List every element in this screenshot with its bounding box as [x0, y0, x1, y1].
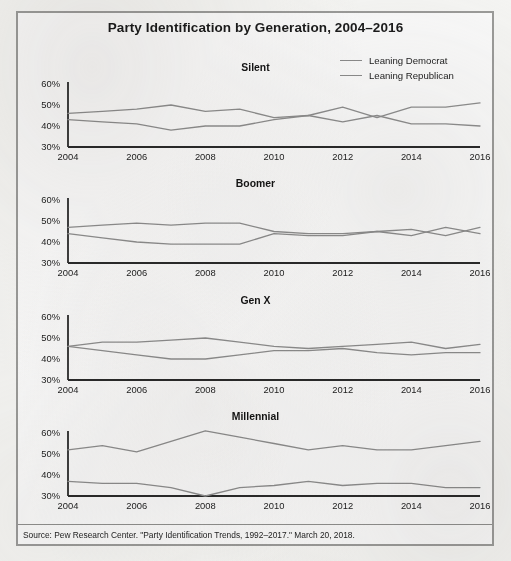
- x-tick-label: 2004: [58, 267, 79, 278]
- x-tick-label: 2008: [195, 267, 216, 278]
- series-line-leaning-republican: [68, 103, 480, 130]
- series-line-leaning-democrat: [68, 338, 480, 349]
- x-tick-label: 2014: [401, 267, 422, 278]
- plot-area-gen-x: 30%40%50%60%2004200620082010201220142016: [0, 295, 511, 400]
- x-tick-label: 2012: [332, 151, 353, 162]
- series-line-leaning-republican: [68, 227, 480, 244]
- x-tick-label: 2016: [470, 500, 491, 511]
- x-tick-label: 2012: [332, 384, 353, 395]
- figure-canvas: Party Identification by Generation, 2004…: [0, 0, 511, 561]
- x-tick-label: 2016: [470, 384, 491, 395]
- x-tick-label: 2010: [264, 500, 285, 511]
- plot-area-silent: 30%40%50%60%2004200620082010201220142016: [0, 62, 511, 167]
- x-tick-label: 2012: [332, 267, 353, 278]
- y-tick-label: 50%: [41, 99, 60, 110]
- series-line-leaning-republican: [68, 346, 480, 359]
- y-tick-label: 50%: [41, 332, 60, 343]
- x-tick-label: 2006: [126, 384, 147, 395]
- x-tick-label: 2012: [332, 500, 353, 511]
- y-tick-label: 60%: [41, 427, 60, 438]
- x-tick-label: 2004: [58, 384, 79, 395]
- y-tick-label: 40%: [41, 120, 60, 131]
- x-tick-label: 2016: [470, 151, 491, 162]
- series-line-leaning-republican: [68, 481, 480, 496]
- x-tick-label: 2004: [58, 151, 79, 162]
- x-tick-label: 2010: [264, 267, 285, 278]
- x-tick-label: 2014: [401, 500, 422, 511]
- subchart-millennial: Millennial 30%40%50%60%20042006200820102…: [0, 411, 511, 521]
- y-tick-label: 40%: [41, 469, 60, 480]
- y-tick-label: 60%: [41, 194, 60, 205]
- x-tick-label: 2014: [401, 151, 422, 162]
- x-tick-label: 2008: [195, 151, 216, 162]
- subchart-genx: Gen X 30%40%50%60%2004200620082010201220…: [0, 295, 511, 400]
- x-tick-label: 2014: [401, 384, 422, 395]
- x-tick-label: 2006: [126, 500, 147, 511]
- x-tick-label: 2010: [264, 151, 285, 162]
- x-tick-label: 2004: [58, 500, 79, 511]
- x-tick-label: 2008: [195, 384, 216, 395]
- legend-line-icon-democrat: [340, 60, 362, 61]
- y-tick-label: 50%: [41, 448, 60, 459]
- y-tick-label: 40%: [41, 353, 60, 364]
- x-tick-label: 2008: [195, 500, 216, 511]
- source-divider: [18, 524, 492, 525]
- x-tick-label: 2010: [264, 384, 285, 395]
- y-tick-label: 40%: [41, 236, 60, 247]
- x-tick-label: 2006: [126, 267, 147, 278]
- subchart-boomer: Boomer 30%40%50%60%200420062008201020122…: [0, 178, 511, 283]
- page-title: Party Identification by Generation, 2004…: [0, 20, 511, 35]
- y-tick-label: 60%: [41, 311, 60, 322]
- y-tick-label: 60%: [41, 78, 60, 89]
- subchart-silent: Silent 30%40%50%60%200420062008201020122…: [0, 62, 511, 167]
- series-line-leaning-democrat: [68, 431, 480, 452]
- y-tick-label: 50%: [41, 215, 60, 226]
- source-note: Source: Pew Research Center. "Party Iden…: [23, 530, 355, 540]
- x-tick-label: 2006: [126, 151, 147, 162]
- plot-area-boomer: 30%40%50%60%2004200620082010201220142016: [0, 178, 511, 283]
- x-tick-label: 2016: [470, 267, 491, 278]
- plot-area-millennial: 30%40%50%60%2004200620082010201220142016: [0, 411, 511, 521]
